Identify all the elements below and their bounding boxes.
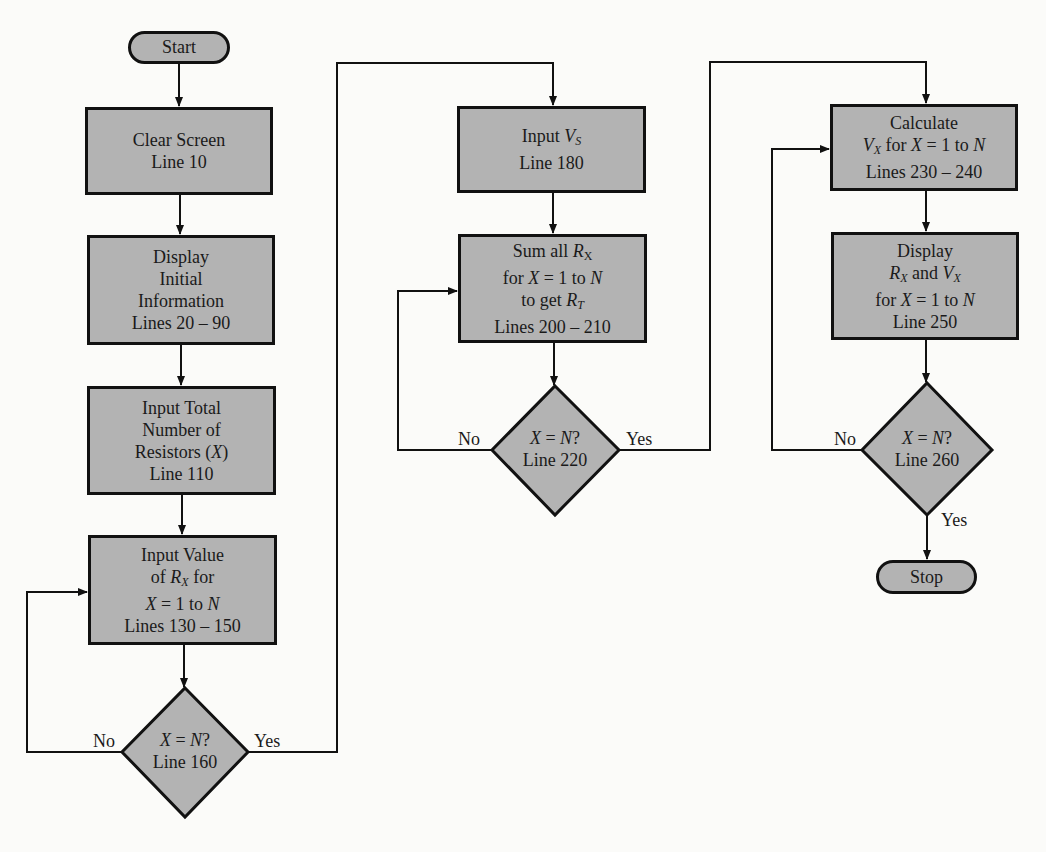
decision-line: Line 260 bbox=[872, 449, 982, 471]
box-text: Number of bbox=[142, 419, 220, 441]
sum-rx-box: Sum all RX for X = 1 to N to get RT Line… bbox=[458, 234, 647, 343]
box-text: to get RT bbox=[521, 289, 584, 316]
box-text: Initial bbox=[160, 268, 203, 290]
decision-condition: X = N? bbox=[500, 427, 610, 449]
box-text: Lines 200 – 210 bbox=[494, 316, 611, 338]
box-text: Lines 130 – 150 bbox=[124, 615, 241, 637]
stop-terminator: Stop bbox=[876, 560, 977, 594]
box-text: Sum all RX bbox=[513, 240, 593, 267]
box-text: Calculate bbox=[890, 112, 958, 134]
decision-condition: X = N? bbox=[130, 729, 240, 751]
decision-3-no-label: No bbox=[834, 429, 856, 450]
decision-2-yes-label: Yes bbox=[626, 429, 652, 450]
box-text: of RX for bbox=[151, 566, 214, 593]
display-rx-vx-box: Display RX and VX for X = 1 to N Line 25… bbox=[831, 232, 1019, 340]
start-label: Start bbox=[162, 37, 196, 58]
box-text: Line 10 bbox=[151, 151, 207, 173]
clear-screen-box: Clear Screen Line 10 bbox=[85, 107, 273, 195]
decision-line: Line 160 bbox=[130, 751, 240, 773]
stop-label: Stop bbox=[910, 567, 943, 588]
start-terminator: Start bbox=[128, 31, 230, 64]
box-text: VX for X = 1 to N bbox=[863, 134, 986, 161]
box-text: Information bbox=[138, 290, 224, 312]
box-text: Display bbox=[153, 246, 209, 268]
box-text: Input Total bbox=[142, 397, 221, 419]
box-text: for X = 1 to N bbox=[875, 289, 975, 311]
input-total-resistors-box: Input Total Number of Resistors (X) Line… bbox=[87, 386, 276, 495]
box-text: Lines 20 – 90 bbox=[132, 312, 231, 334]
box-text: Line 180 bbox=[519, 152, 584, 174]
decision-1-no-label: No bbox=[93, 731, 115, 752]
box-text: for X = 1 to N bbox=[503, 267, 603, 289]
decision-2-text: X = N? Line 220 bbox=[500, 427, 610, 471]
display-initial-info-box: Display Initial Information Lines 20 – 9… bbox=[87, 235, 275, 345]
decision-3-yes-label: Yes bbox=[941, 510, 967, 531]
box-text: RX and VX bbox=[889, 262, 961, 289]
decision-line: Line 220 bbox=[500, 449, 610, 471]
box-text: X = 1 to N bbox=[145, 593, 219, 615]
input-value-rx-box: Input Value of RX for X = 1 to N Lines 1… bbox=[88, 535, 277, 645]
box-text: Line 250 bbox=[893, 311, 958, 333]
box-text: Line 110 bbox=[150, 463, 214, 485]
decision-2-no-label: No bbox=[458, 429, 480, 450]
decision-1-yes-label: Yes bbox=[254, 731, 280, 752]
decision-condition: X = N? bbox=[872, 427, 982, 449]
box-text: Display bbox=[897, 240, 953, 262]
calculate-vx-box: Calculate VX for X = 1 to N Lines 230 – … bbox=[830, 104, 1018, 191]
box-text: Lines 230 – 240 bbox=[866, 161, 983, 183]
decision-3-text: X = N? Line 260 bbox=[872, 427, 982, 471]
input-vs-box: Input VS Line 180 bbox=[457, 106, 646, 193]
box-text: Input Value bbox=[141, 544, 224, 566]
box-text: Input VS bbox=[522, 125, 582, 152]
box-text: Resistors (X) bbox=[135, 441, 229, 463]
box-text: Clear Screen bbox=[133, 129, 225, 151]
decision-1-text: X = N? Line 160 bbox=[130, 729, 240, 773]
